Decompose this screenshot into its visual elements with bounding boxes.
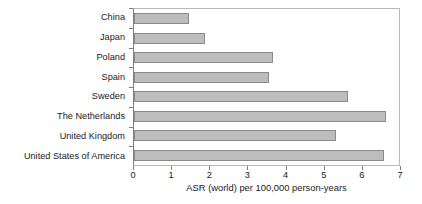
plot-area xyxy=(133,8,400,166)
x-tick-label: 4 xyxy=(283,171,288,180)
category-axis-labels: China Japan Poland Spain Sweden The Neth… xyxy=(0,8,130,166)
bar-slot-sweden xyxy=(134,87,399,107)
bar-slot-japan xyxy=(134,29,399,49)
category-label-sweden: Sweden xyxy=(0,87,130,107)
x-tick-label: 3 xyxy=(245,171,250,180)
x-axis-title: ASR (world) per 100,000 person-years xyxy=(133,183,400,192)
bar-china xyxy=(134,13,189,24)
category-label-japan: Japan xyxy=(0,28,130,48)
category-label-united-kingdom: United Kingdom xyxy=(0,127,130,147)
bar-united-kingdom xyxy=(134,130,336,141)
bar-japan xyxy=(134,33,205,44)
bar-slot-poland xyxy=(134,48,399,68)
bar-spain xyxy=(134,72,269,83)
x-tick-label: 7 xyxy=(397,171,402,180)
x-axis: 01234567 xyxy=(133,166,400,172)
category-label-netherlands: The Netherlands xyxy=(0,107,130,127)
bar-united-states xyxy=(134,150,384,161)
x-tick-label: 5 xyxy=(321,171,326,180)
x-tick-label: 1 xyxy=(169,171,174,180)
category-label-spain: Spain xyxy=(0,67,130,87)
bars-layer xyxy=(134,9,399,165)
bar-slot-spain xyxy=(134,68,399,88)
category-label-china: China xyxy=(0,8,130,28)
category-label-united-states: United States of America xyxy=(0,146,130,166)
bar-slot-united-states xyxy=(134,146,399,166)
bar-poland xyxy=(134,52,273,63)
bar-chart: China Japan Poland Spain Sweden The Neth… xyxy=(0,0,422,204)
x-tick-label: 2 xyxy=(207,171,212,180)
x-tick-label: 6 xyxy=(359,171,364,180)
bar-sweden xyxy=(134,91,348,102)
bar-slot-netherlands xyxy=(134,107,399,127)
x-tick-label: 0 xyxy=(130,171,135,180)
bar-slot-united-kingdom xyxy=(134,126,399,146)
category-label-poland: Poland xyxy=(0,48,130,68)
bar-netherlands xyxy=(134,111,386,122)
bar-slot-china xyxy=(134,9,399,29)
